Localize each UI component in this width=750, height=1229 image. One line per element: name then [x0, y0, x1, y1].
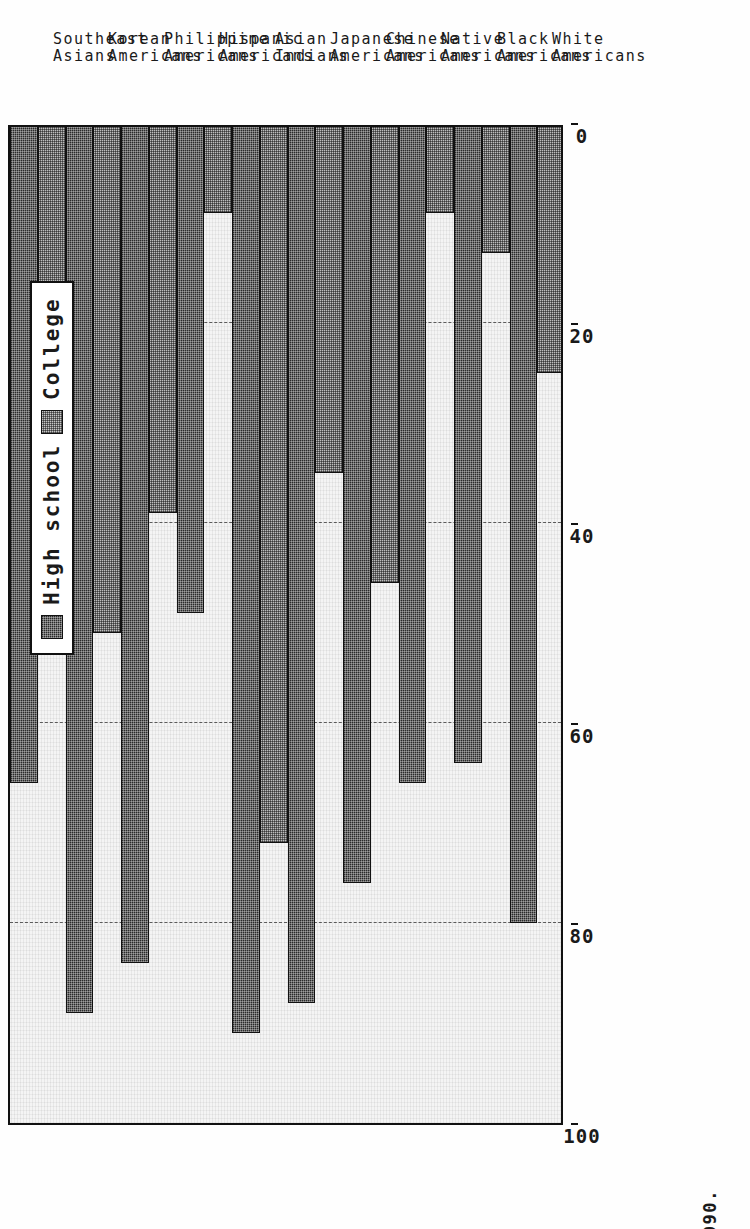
- axis-tick-label: 100: [563, 1125, 600, 1147]
- chart-legend: High school College: [30, 281, 74, 655]
- plot-area: 100806040200 WhiteAmericansBlackAmerican…: [8, 125, 563, 1125]
- source-caption: Source: 1% Public Use Microdata Sample, …: [700, 1189, 720, 1229]
- plot-frame: [8, 125, 563, 1125]
- bar-hs: [399, 125, 427, 783]
- bar-hs: [288, 125, 316, 1003]
- axis-tick-label: 80: [570, 925, 595, 947]
- axis-tick-label: 20: [570, 325, 595, 347]
- bar-col: [371, 125, 399, 583]
- bar-col: [204, 125, 232, 213]
- bar-hs: [510, 125, 538, 923]
- bar-group: [121, 127, 177, 1123]
- bar-col: [482, 125, 510, 253]
- bar-col: [93, 125, 121, 633]
- axis-tick-label: 40: [570, 525, 595, 547]
- bar-group: [510, 127, 564, 1123]
- axis-tick-label: 0: [576, 125, 588, 147]
- bar-col: [260, 125, 288, 843]
- legend-label-high-school: High school: [40, 444, 64, 605]
- legend-label-college: College: [40, 297, 64, 400]
- chart-stage: 100806040200 WhiteAmericansBlackAmerican…: [0, 49, 600, 1179]
- bar-hs: [454, 125, 482, 763]
- bar-col: [149, 125, 177, 513]
- legend-swatch-college: [41, 410, 63, 434]
- axis-tick-label: 60: [570, 725, 595, 747]
- bar-col: [38, 125, 66, 303]
- bar-hs: [177, 125, 205, 613]
- bar-hs: [343, 125, 371, 883]
- bar-group: [399, 127, 455, 1123]
- bar-col: [426, 125, 454, 213]
- bar-hs: [232, 125, 260, 1033]
- bar-group: [288, 127, 344, 1123]
- bar-group: [343, 127, 399, 1123]
- bar-col: [537, 125, 563, 373]
- bar-group: [232, 127, 288, 1123]
- legend-swatch-high-school: [41, 615, 63, 639]
- bar-col: [315, 125, 343, 473]
- bar-group: [177, 127, 233, 1123]
- bar-group: [454, 127, 510, 1123]
- bar-hs: [121, 125, 149, 963]
